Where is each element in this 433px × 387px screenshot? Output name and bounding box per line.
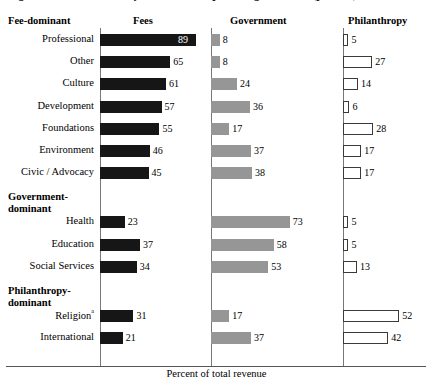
bar-government xyxy=(211,261,268,273)
bar-value-government: 73 xyxy=(293,216,303,228)
bar-value-fees: 21 xyxy=(126,332,136,344)
bar-fees xyxy=(100,239,140,251)
bar-value-philanthropy: 27 xyxy=(375,56,385,68)
bar-fees xyxy=(100,216,125,228)
bar-value-philanthropy: 5 xyxy=(351,239,356,251)
bar-value-government: 17 xyxy=(232,310,242,322)
row-label-culture: Culture xyxy=(63,77,95,88)
bar-fees xyxy=(100,123,159,135)
bar-philanthropy xyxy=(343,239,348,251)
bar-value-philanthropy: 5 xyxy=(351,216,356,228)
bar-value-philanthropy: 42 xyxy=(391,332,401,344)
footnote-marker: a xyxy=(91,308,94,314)
bottom-axis-rule xyxy=(6,366,426,367)
group-label-line2: dominant xyxy=(8,203,68,215)
bar-philanthropy xyxy=(343,78,358,90)
row-label-health: Health xyxy=(66,215,94,226)
bar-value-philanthropy: 5 xyxy=(351,34,356,46)
group-label-line1: Philanthropy- xyxy=(8,285,71,297)
figure-title-clipped: Figure Revenue sources by subsector, non… xyxy=(0,0,433,11)
bar-philanthropy xyxy=(343,101,349,113)
bar-value-government: 17 xyxy=(232,123,242,135)
bar-value-philanthropy: 52 xyxy=(402,310,412,322)
bar-government xyxy=(211,239,274,251)
bar-value-government: 37 xyxy=(254,145,264,157)
bar-government xyxy=(211,123,229,135)
column-header-group: Fee-dominant xyxy=(8,15,70,26)
bar-value-government: 24 xyxy=(240,78,250,90)
bar-fees xyxy=(100,101,162,113)
bar-value-fees: 34 xyxy=(140,261,150,273)
bar-value-philanthropy: 17 xyxy=(364,167,374,179)
row-label-education: Education xyxy=(51,238,94,249)
bar-philanthropy xyxy=(343,145,361,157)
bar-value-fees: 89 xyxy=(178,34,188,46)
bar-government xyxy=(211,332,251,344)
bar-philanthropy xyxy=(343,34,348,46)
row-label-foundations: Foundations xyxy=(42,122,94,133)
bar-philanthropy xyxy=(343,167,361,179)
bar-government xyxy=(211,216,290,228)
bar-value-government: 53 xyxy=(271,261,281,273)
bar-value-fees: 61 xyxy=(169,78,179,90)
bar-value-philanthropy: 13 xyxy=(360,261,370,273)
bar-philanthropy xyxy=(343,216,348,228)
bar-fees xyxy=(100,167,149,179)
bar-value-government: 38 xyxy=(255,167,265,179)
bar-value-fees: 55 xyxy=(162,123,172,135)
row-label-environment: Environment xyxy=(39,144,94,155)
bar-fees xyxy=(100,78,166,90)
row-label-professional: Professional xyxy=(42,33,94,44)
bar-value-government: 8 xyxy=(223,34,228,46)
revenue-sources-chart: Figure Revenue sources by subsector, non… xyxy=(0,0,433,387)
bar-government xyxy=(211,167,252,179)
group-label-government-dominant: Government-dominant xyxy=(8,191,68,214)
bar-government xyxy=(211,56,220,68)
bar-fees xyxy=(100,56,170,68)
bar-value-government: 58 xyxy=(277,239,287,251)
bar-value-philanthropy: 6 xyxy=(352,101,357,113)
row-label-other: Other xyxy=(70,55,94,66)
group-label-line2: dominant xyxy=(8,297,71,309)
bar-value-fees: 46 xyxy=(153,145,163,157)
bar-government xyxy=(211,101,250,113)
bar-value-government: 36 xyxy=(253,101,263,113)
bar-philanthropy xyxy=(343,56,372,68)
bar-value-fees: 57 xyxy=(165,101,175,113)
group-label-line1: Government- xyxy=(8,191,68,203)
bar-philanthropy xyxy=(343,261,357,273)
bar-fees xyxy=(100,261,137,273)
bar-value-philanthropy: 17 xyxy=(364,145,374,157)
bar-value-fees: 37 xyxy=(143,239,153,251)
row-label-civic-advocacy: Civic / Advocacy xyxy=(21,166,94,177)
bar-government xyxy=(211,145,251,157)
x-axis-caption: Percent of total revenue xyxy=(0,368,433,379)
bar-value-government: 37 xyxy=(254,332,264,344)
bar-value-fees: 23 xyxy=(128,216,138,228)
bar-philanthropy xyxy=(343,332,388,344)
bar-value-government: 8 xyxy=(223,56,228,68)
row-label-religion: Religiona xyxy=(55,309,94,321)
bar-philanthropy xyxy=(343,123,373,135)
bar-value-fees: 45 xyxy=(152,167,162,179)
bar-fees xyxy=(100,310,133,322)
bar-fees xyxy=(100,332,123,344)
column-header-fees: Fees xyxy=(133,15,153,26)
bar-fees xyxy=(100,145,150,157)
bar-value-fees: 31 xyxy=(136,310,146,322)
column-header-philanthropy: Philanthropy xyxy=(348,15,407,26)
bar-value-philanthropy: 14 xyxy=(361,78,371,90)
row-label-international: International xyxy=(40,331,94,342)
bar-government xyxy=(211,310,229,322)
group-label-philanthropy-dominant: Philanthropy-dominant xyxy=(8,285,71,308)
row-label-development: Development xyxy=(37,100,94,111)
row-label-social-services: Social Services xyxy=(30,260,94,271)
bar-government xyxy=(211,78,237,90)
bar-value-philanthropy: 28 xyxy=(376,123,386,135)
bar-philanthropy xyxy=(343,310,399,322)
bar-government xyxy=(211,34,220,46)
bar-value-fees: 65 xyxy=(173,56,183,68)
column-header-government: Government xyxy=(230,15,287,26)
